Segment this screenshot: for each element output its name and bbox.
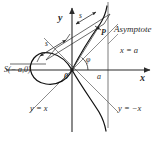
line-y-equals-x-label: y = x xyxy=(30,104,48,113)
point-p-group xyxy=(70,26,101,72)
origin-marker xyxy=(70,68,73,71)
asymptote-equation-label: x = a xyxy=(120,46,138,55)
point-p-label: P xyxy=(101,29,106,37)
asymptote-leader-line xyxy=(108,34,118,44)
strophoid-figure: y x 0 P φ a S(− a,0) Asymptote x = a y =… xyxy=(0,0,160,142)
arc-tick-b xyxy=(37,56,40,62)
arc-length-label-1: s xyxy=(79,12,82,20)
arc-length-label-2: s xyxy=(45,40,48,48)
asymptote-title-label: Asymptote xyxy=(114,25,152,34)
origin-label: 0 xyxy=(64,73,68,81)
y-axis-label: y xyxy=(58,13,62,23)
arc-tick-a xyxy=(66,34,70,40)
arc-length-markers xyxy=(37,12,110,62)
x-axis-label: x xyxy=(140,73,145,83)
node-point-label: S(− a,0) xyxy=(4,66,31,74)
line-y-equals-minus-x-label: y = −x xyxy=(118,104,141,113)
radius-vector-op xyxy=(72,28,98,70)
arc-rail-lower xyxy=(46,24,104,60)
angle-phi-label: φ xyxy=(86,56,90,64)
x-tick-a-label: a xyxy=(97,73,101,81)
